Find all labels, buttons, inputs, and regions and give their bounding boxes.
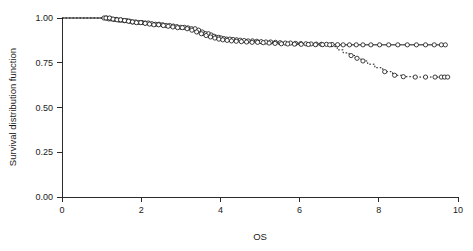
censor-marker	[393, 73, 397, 77]
censor-marker	[126, 19, 130, 23]
censor-marker	[139, 21, 143, 25]
censor-marker	[369, 43, 373, 47]
censor-marker	[341, 43, 345, 47]
censor-marker	[250, 40, 254, 44]
censor-marker	[347, 43, 351, 47]
censor-marker	[166, 24, 170, 28]
censor-marker	[119, 18, 123, 22]
censor-marker	[213, 36, 217, 40]
x-tick-label: 6	[297, 205, 302, 215]
censor-marker	[267, 41, 271, 45]
censor-marker	[195, 30, 199, 34]
censor-marker	[199, 32, 203, 36]
x-axis-title: OS	[253, 231, 267, 242]
x-tick-label: 8	[376, 205, 381, 215]
censor-marker	[261, 41, 265, 45]
censor-marker	[432, 43, 436, 47]
censor-marker	[355, 56, 359, 60]
censor-marker	[313, 43, 317, 47]
censor-marker	[256, 40, 260, 44]
censor-marker	[414, 43, 418, 47]
censor-marker	[208, 35, 212, 39]
censor-marker	[387, 43, 391, 47]
x-tick-label: 0	[59, 205, 64, 215]
censor-marker	[361, 59, 365, 63]
censor-marker	[185, 27, 189, 31]
censor-marker	[279, 42, 283, 46]
censor-marker	[405, 43, 409, 47]
censor-markers-dashed	[104, 16, 450, 79]
survival-chart-figure: 0.000.250.500.751.00 0246810 Survival di…	[0, 0, 473, 251]
survival-plot-canvas: 0.000.250.500.751.00 0246810 Survival di…	[0, 0, 473, 251]
y-tick-label: 0.00	[35, 192, 53, 202]
censor-marker	[221, 38, 225, 42]
censor-marker	[423, 75, 427, 79]
survival-curve-dashed	[62, 18, 447, 77]
censor-marker	[336, 43, 340, 47]
y-tick-label: 1.00	[35, 13, 53, 23]
censor-marker	[401, 75, 405, 79]
censor-marker	[152, 23, 156, 27]
censor-marker	[383, 70, 387, 74]
censor-marker	[349, 53, 353, 57]
censor-marker	[229, 39, 233, 43]
y-axis-title: Survival distribution function	[7, 48, 18, 166]
censor-marker	[239, 40, 243, 44]
censor-marker	[161, 23, 165, 27]
censor-marker	[134, 21, 138, 25]
censor-marker	[234, 39, 238, 43]
censor-marker	[423, 43, 427, 47]
censor-marker	[122, 18, 126, 22]
censor-marker	[328, 43, 332, 47]
y-axis-tick-labels: 0.000.250.500.751.00	[35, 13, 53, 202]
censor-marker	[147, 22, 151, 26]
censor-marker	[377, 43, 381, 47]
censor-marker	[354, 43, 358, 47]
x-tick-label: 10	[453, 205, 463, 215]
censor-marker	[306, 42, 310, 46]
censor-marker	[446, 75, 450, 79]
censor-marker	[361, 43, 365, 47]
censor-marker	[190, 28, 194, 32]
censor-marker	[413, 75, 417, 79]
censor-marker	[143, 21, 147, 25]
censor-marker	[180, 26, 184, 30]
censor-marker	[111, 17, 115, 21]
censor-marker	[244, 40, 248, 44]
censor-marker	[292, 42, 296, 46]
censor-marker	[225, 38, 229, 42]
y-tick-label: 0.50	[35, 103, 53, 113]
censor-marker	[286, 42, 290, 46]
x-tick-label: 4	[218, 205, 223, 215]
censor-marker	[433, 75, 437, 79]
x-axis-tick-labels: 0246810	[59, 205, 463, 215]
censor-marker	[204, 33, 208, 37]
censor-marker	[320, 43, 324, 47]
censor-marker	[217, 37, 221, 41]
censor-marker	[273, 41, 277, 45]
censor-marker	[171, 25, 175, 29]
censor-marker	[396, 43, 400, 47]
y-tick-label: 0.75	[35, 58, 53, 68]
x-tick-label: 2	[139, 205, 144, 215]
censor-marker	[443, 43, 447, 47]
censor-marker	[130, 20, 134, 24]
censor-marker	[299, 42, 303, 46]
censor-marker	[157, 23, 161, 27]
censor-marker	[176, 26, 180, 30]
y-tick-label: 0.25	[35, 147, 53, 157]
